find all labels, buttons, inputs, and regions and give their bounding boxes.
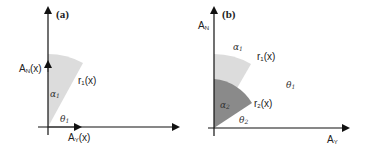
theta2-label: θ2 <box>239 115 248 125</box>
r1-label: r1(x) <box>257 51 275 62</box>
r1-label: r1(x) <box>78 75 96 86</box>
theta1-label: θ1 <box>286 80 295 90</box>
r2-label: r2(x) <box>254 98 272 109</box>
theta1-label: θ1 <box>60 114 69 124</box>
ay-x-label: AY(x) <box>68 132 90 143</box>
panel-label-b: (b) <box>222 8 236 21</box>
alpha1-label: α1 <box>233 42 243 52</box>
panel-b: (b) AN α1 r1(x) θ1 α2 r2(x) θ2 AY <box>198 8 348 145</box>
an-label: AN <box>198 20 209 31</box>
ay-label: AY <box>327 134 338 145</box>
an-x-label: AN(x) <box>19 63 42 74</box>
panel-label-a: (a) <box>56 8 69 21</box>
panel-a: (a) AN(x) r1(x) α1 θ1 AY(x) <box>19 8 178 143</box>
